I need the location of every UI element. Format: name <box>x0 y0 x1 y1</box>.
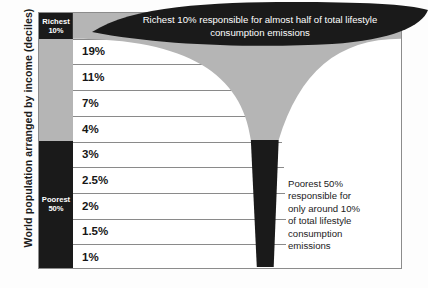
decile-percentage-label: 7% <box>82 97 99 109</box>
infographic-root: World population arranged by income (dec… <box>0 0 428 288</box>
decile-percentage-label: 3% <box>82 148 99 160</box>
gridline <box>73 244 286 245</box>
decile-percentage-label: 2.5% <box>82 174 108 186</box>
decile-row: 7% <box>73 90 401 116</box>
caption-line-6: emissions <box>288 240 400 252</box>
richest-label-line1: Richest <box>42 17 69 26</box>
poorest-label-line1: Poorest <box>42 195 70 204</box>
richest-band-label: Richest 10% <box>39 17 73 36</box>
decile-percentage-label: 4% <box>82 123 99 135</box>
banner-lens-path <box>92 2 428 46</box>
richest-label-line2: 10% <box>48 26 63 35</box>
gridline <box>73 142 282 143</box>
top-banner-shape <box>92 0 428 50</box>
decile-percentage-label: 2% <box>82 200 99 212</box>
gridline <box>73 219 286 220</box>
decile-color-column: Richest 10% Poorest 50% <box>39 13 73 268</box>
gridline <box>73 64 269 65</box>
decile-row: 4% <box>73 116 401 142</box>
gridline <box>73 90 276 91</box>
caption-line-2: responsible for <box>288 190 400 202</box>
decile-percentage-label: 1.5% <box>82 225 108 237</box>
y-axis-title: World population arranged by income (dec… <box>22 0 34 260</box>
gridline <box>73 193 285 194</box>
caption-line-5: consumption <box>288 228 400 240</box>
gridline <box>73 167 284 168</box>
gridline <box>73 116 280 117</box>
decile-percentage-label: 1% <box>82 251 99 263</box>
poorest-label-line2: 50% <box>48 204 63 213</box>
poorest-band-label: Poorest 50% <box>39 195 73 214</box>
decile-percentage-label: 11% <box>82 71 104 83</box>
decile-row: 3% <box>73 142 401 168</box>
caption-line-1: Poorest 50% <box>288 178 400 190</box>
decile-row: 11% <box>73 64 401 90</box>
caption-line-3: only around 10% <box>288 203 400 215</box>
middle-band <box>39 39 73 141</box>
caption-line-4: of total lifestyle <box>288 215 400 227</box>
poorest-caption: Poorest 50% responsible for only around … <box>288 178 400 252</box>
